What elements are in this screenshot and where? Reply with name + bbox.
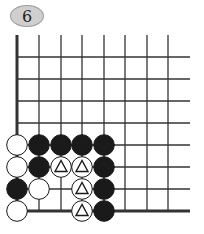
- black-stone[interactable]: [72, 135, 93, 156]
- black-stone[interactable]: [29, 135, 50, 156]
- black-stone[interactable]: [29, 157, 50, 178]
- white-stone[interactable]: [7, 157, 28, 178]
- white-stone[interactable]: [7, 201, 28, 222]
- black-stone[interactable]: [7, 179, 28, 200]
- black-stone[interactable]: [94, 201, 115, 222]
- white-stone[interactable]: [29, 179, 50, 200]
- black-stone[interactable]: [94, 135, 115, 156]
- black-stone[interactable]: [94, 157, 115, 178]
- black-stone[interactable]: [51, 135, 72, 156]
- go-board-diagram[interactable]: [0, 0, 204, 234]
- black-stone[interactable]: [94, 179, 115, 200]
- white-stone[interactable]: [7, 135, 28, 156]
